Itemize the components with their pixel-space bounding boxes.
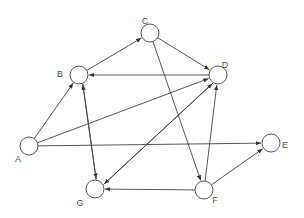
- edge-g-to-b: [83, 85, 96, 180]
- node-label-b: B: [57, 69, 63, 79]
- node-f: [195, 181, 213, 199]
- edge-c-to-f: [153, 42, 201, 181]
- edge-g-to-d: [103, 84, 212, 185]
- edges-layer: [34, 38, 263, 190]
- edge-f-to-g: [105, 189, 195, 190]
- edge-f-to-d: [205, 85, 217, 181]
- node-label-f: F: [212, 195, 218, 205]
- graph-canvas: ABCDEFG: [0, 0, 304, 218]
- node-label-d: D: [222, 60, 229, 70]
- node-label-g: G: [76, 198, 83, 208]
- node-a: [20, 137, 38, 155]
- node-label-e: E: [282, 140, 288, 150]
- edge-a-to-e: [38, 143, 261, 146]
- node-g: [86, 180, 104, 198]
- edge-b-to-c: [87, 38, 142, 70]
- node-label-a: A: [15, 154, 21, 164]
- edge-f-to-e: [211, 149, 262, 185]
- node-c: [141, 24, 159, 42]
- graph-diagram: ABCDEFG: [0, 0, 304, 218]
- node-label-c: C: [142, 16, 149, 26]
- edge-a-to-b: [34, 83, 73, 138]
- node-b: [70, 66, 88, 84]
- edge-c-to-d: [158, 38, 210, 70]
- node-e: [262, 134, 280, 152]
- nodes-layer: ABCDEFG: [15, 16, 288, 208]
